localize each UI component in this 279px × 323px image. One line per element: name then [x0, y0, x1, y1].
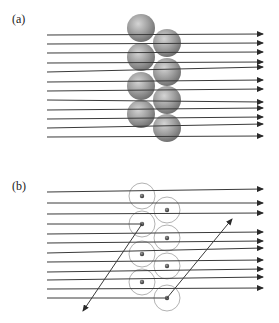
- ray-arrow: [47, 117, 263, 119]
- nucleus-dot: [165, 264, 169, 268]
- ray-arrow: [47, 62, 263, 63]
- panel-b: (b): [12, 179, 263, 311]
- ray-arrow: [47, 108, 263, 110]
- ray-arrow: [47, 52, 263, 53]
- nucleus-dot: [165, 208, 169, 212]
- nucleus-dot: [140, 280, 144, 284]
- ray-arrow: [47, 43, 263, 44]
- panel-label-b: (b): [12, 179, 26, 193]
- ray-arrow: [47, 213, 263, 214]
- scattered-ray-arrow: [167, 219, 232, 298]
- panel-a: (a): [12, 12, 263, 142]
- sphere: [127, 100, 155, 128]
- ray-arrow: [47, 80, 263, 82]
- panel-label-a: (a): [12, 12, 25, 26]
- ray-arrow: [47, 288, 263, 289]
- nucleus-dot: [140, 194, 144, 198]
- nucleus-dot: [140, 252, 144, 256]
- sphere: [127, 72, 155, 100]
- ray-arrow: [47, 136, 263, 137]
- ray-arrow: [47, 34, 263, 35]
- sphere: [127, 43, 155, 71]
- sphere: [127, 14, 155, 42]
- nucleus-dot: [165, 236, 169, 240]
- sphere-layer-a: [127, 14, 181, 142]
- scattering-diagram: (a) (b): [0, 0, 279, 323]
- ray-beam-b: [47, 189, 263, 289]
- ray-arrow: [47, 89, 263, 91]
- ray-arrow: [47, 189, 263, 192]
